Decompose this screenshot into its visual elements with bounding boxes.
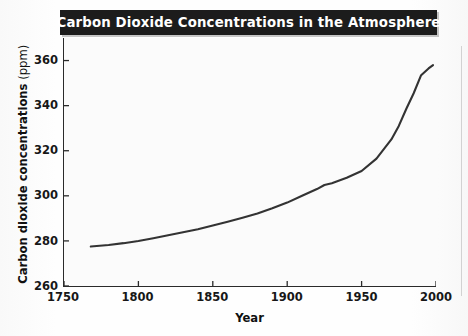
y-axis-title: Carbon dioxide concentrations (ppm) bbox=[18, 52, 30, 284]
y-axis-title-unit: (ppm) bbox=[16, 45, 30, 84]
x-axis-tick-label: 1900 bbox=[263, 292, 311, 304]
x-axis-tick-label: 1750 bbox=[39, 292, 87, 304]
co2-chart-figure: Carbon Dioxide Concentrations in the Atm… bbox=[0, 0, 468, 336]
x-axis-tick-label: 1850 bbox=[188, 292, 236, 304]
plot-canvas bbox=[64, 38, 436, 286]
x-axis-tick-marks bbox=[64, 281, 436, 286]
x-axis-tick-label: 1950 bbox=[337, 292, 385, 304]
y-axis-tick-marks bbox=[64, 61, 69, 286]
chart-title-bar: Carbon Dioxide Concentrations in the Atm… bbox=[60, 10, 437, 35]
y-axis-title-main: Carbon dioxide concentrations bbox=[16, 84, 30, 284]
x-axis-tick-label: 1800 bbox=[114, 292, 162, 304]
page-edge-artifact bbox=[461, 46, 462, 296]
page-title: Carbon Dioxide Concentrations in the Atm… bbox=[56, 16, 440, 29]
co2-data-line bbox=[91, 65, 433, 246]
plot-area bbox=[63, 38, 436, 287]
x-axis-title: Year bbox=[63, 313, 436, 325]
x-axis-tick-label: 2000 bbox=[412, 292, 460, 304]
